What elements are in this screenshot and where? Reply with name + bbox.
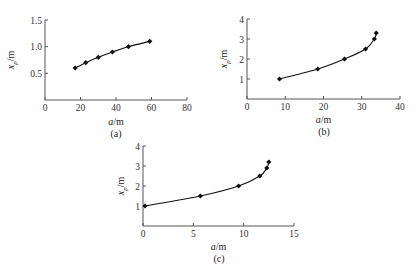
x-axis-label: a/m: [108, 116, 124, 127]
y-tick-label: 1.5: [30, 16, 42, 26]
data-point-marker: [264, 165, 269, 170]
x-tick-label: 15: [289, 229, 299, 239]
x-tick-label: 80: [182, 103, 192, 113]
x-tick-label: 0: [245, 102, 250, 112]
data-point-marker: [266, 159, 271, 164]
panel-label: (c): [213, 253, 224, 265]
figure-canvas: 0204060800.51.01.5a/mxp/m(a)010203040123…: [0, 0, 416, 276]
y-tick-label: 2: [135, 182, 140, 192]
x-tick-label: 10: [239, 229, 249, 239]
y-axis-label: xp/m: [115, 177, 129, 197]
y-tick-label: 1.0: [30, 42, 42, 52]
x-tick-label: 40: [395, 102, 405, 112]
data-point-marker: [374, 30, 379, 35]
x-axis-label: a/m: [211, 241, 227, 252]
x-tick-label: 0: [141, 229, 146, 239]
data-point-marker: [342, 56, 347, 61]
data-point-marker: [83, 60, 88, 65]
x-tick-label: 20: [76, 103, 86, 113]
series-line: [145, 162, 269, 206]
y-tick-label: 2: [239, 55, 244, 65]
x-tick-label: 40: [111, 103, 121, 113]
x-axis-label: a/m: [316, 114, 332, 125]
series-line: [280, 33, 377, 79]
x-tick-label: 20: [319, 102, 329, 112]
y-tick-label: 3: [239, 35, 244, 45]
x-tick-label: 30: [357, 102, 367, 112]
y-tick-label: 3: [135, 162, 140, 172]
data-point-marker: [277, 76, 282, 81]
data-point-marker: [198, 193, 203, 198]
x-tick-label: 0: [43, 103, 48, 113]
x-tick-label: 5: [191, 229, 196, 239]
y-tick-label: 0.5: [30, 69, 42, 79]
data-point-marker: [110, 49, 115, 54]
y-tick-label: 1: [239, 75, 244, 85]
x-tick-label: 10: [281, 102, 291, 112]
data-point-marker: [236, 183, 241, 188]
chart-panel-c: 0510151234a/mxp/m(c): [115, 142, 299, 266]
x-tick-label: 60: [147, 103, 157, 113]
panel-label: (a): [110, 128, 121, 140]
data-point-marker: [315, 66, 320, 71]
data-point-marker: [147, 39, 152, 44]
data-point-marker: [73, 65, 78, 70]
y-tick-label: 1: [135, 202, 140, 212]
chart-panel-a: 0204060800.51.01.5a/mxp/m(a): [5, 16, 192, 141]
y-tick-label: 4: [239, 15, 244, 25]
chart-panel-b: 0102030401234a/mxp/m(b): [218, 15, 405, 139]
data-point-marker: [126, 44, 131, 49]
data-point-marker: [96, 55, 101, 60]
y-axis-label: xp/m: [218, 50, 232, 70]
panel-label: (b): [318, 126, 330, 138]
y-tick-label: 4: [135, 142, 140, 152]
y-axis-label: xp/m: [5, 51, 19, 71]
